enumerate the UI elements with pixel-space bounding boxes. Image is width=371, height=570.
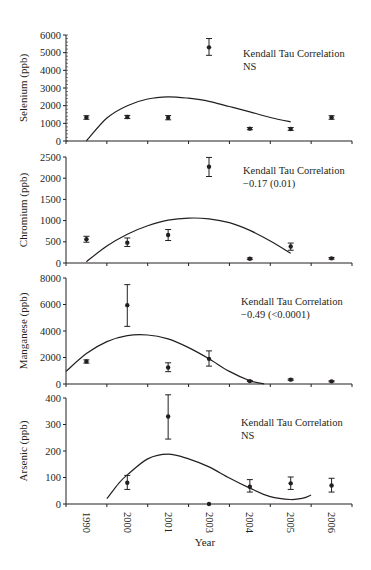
- x-tick-label: 2001: [163, 512, 174, 533]
- x-tick-label: 2005: [285, 512, 296, 533]
- x-axis-title: Year: [195, 536, 216, 548]
- y-tick-label: 4000: [40, 326, 61, 337]
- point-marker: [289, 127, 293, 131]
- kendall-tau-value: NS: [243, 61, 257, 72]
- data-point: [329, 379, 335, 383]
- data-point: [206, 39, 212, 56]
- y-tick-label: 0: [56, 136, 61, 147]
- kendall-tau-annotation: Kendall Tau Correlation: [241, 417, 343, 428]
- kendall-tau-annotation: Kendall Tau Correlation: [241, 296, 343, 307]
- data-point: [124, 238, 130, 246]
- point-marker: [125, 115, 129, 119]
- kendall-tau-annotation: Kendall Tau Correlation: [243, 48, 345, 59]
- panel-arsenic: 0100200300400Arsenic (ppb)Kendall Tau Co…: [17, 393, 352, 510]
- y-axis-title: Selenium (ppb): [17, 54, 30, 122]
- y-tick-label: 0: [56, 258, 61, 269]
- x-tick-label: 2004: [244, 512, 255, 534]
- fit-curve: [86, 97, 290, 141]
- y-tick-label: 100: [45, 472, 61, 483]
- data-point: [329, 115, 335, 119]
- point-marker: [84, 359, 88, 363]
- y-tick-label: 6000: [40, 30, 61, 41]
- point-marker: [248, 126, 252, 130]
- fit-curve: [86, 218, 290, 262]
- x-tick-label: 2000: [122, 512, 133, 533]
- data-point: [165, 115, 171, 119]
- point-marker: [207, 502, 211, 506]
- y-tick-label: 400: [45, 393, 61, 404]
- data-point: [247, 480, 253, 492]
- y-axis-title: Chromium (ppb): [17, 173, 30, 248]
- y-axis-title: Arsenic (ppb): [17, 420, 30, 481]
- multi-panel-chart: 0100020003000400050006000Selenium (ppb)K…: [0, 0, 371, 570]
- panel-manganese: 02000400060008000Manganese (ppb)Kendall …: [17, 273, 352, 390]
- point-marker: [248, 379, 252, 383]
- data-point: [165, 230, 171, 241]
- y-tick-label: 2000: [40, 352, 61, 363]
- data-point: [288, 243, 294, 250]
- kendall-tau-value: −0.49 (<0.0001): [241, 309, 310, 321]
- point-marker: [207, 45, 211, 49]
- data-point: [83, 359, 89, 363]
- y-tick-label: 2000: [40, 173, 61, 184]
- point-marker: [84, 237, 88, 241]
- point-marker: [289, 481, 293, 485]
- panel-chromium: 05001000150020002500Chromium (ppb)Kendal…: [17, 152, 352, 269]
- y-tick-label: 0: [56, 379, 61, 390]
- data-point: [247, 126, 253, 130]
- x-tick-label: 2003: [204, 512, 215, 533]
- point-marker: [125, 481, 129, 485]
- y-tick-label: 2500: [40, 152, 61, 163]
- data-point: [207, 502, 211, 506]
- x-tick-label: 2006: [326, 512, 337, 533]
- y-tick-label: 1000: [40, 215, 61, 226]
- data-point: [247, 257, 253, 261]
- point-marker: [207, 357, 211, 361]
- point-marker: [289, 244, 293, 248]
- x-tick-label: 1990: [81, 512, 92, 533]
- y-tick-label: 1500: [40, 194, 61, 205]
- y-tick-label: 300: [45, 419, 61, 430]
- data-point: [206, 157, 212, 176]
- point-marker: [166, 414, 170, 418]
- point-marker: [166, 233, 170, 237]
- point-marker: [166, 365, 170, 369]
- y-tick-label: 500: [45, 236, 61, 247]
- fit-curve: [107, 454, 311, 499]
- data-point: [206, 351, 212, 366]
- data-point: [83, 236, 89, 242]
- y-tick-label: 1000: [40, 118, 61, 129]
- point-marker: [84, 115, 88, 119]
- data-point: [329, 478, 335, 492]
- data-point: [165, 395, 171, 439]
- point-marker: [329, 115, 333, 119]
- point-marker: [207, 165, 211, 169]
- data-point: [288, 377, 294, 381]
- data-point: [288, 127, 294, 131]
- point-marker: [289, 377, 293, 381]
- point-marker: [166, 115, 170, 119]
- y-tick-label: 0: [56, 499, 61, 510]
- kendall-tau-value: NS: [241, 430, 255, 441]
- data-point: [83, 115, 89, 119]
- data-point: [329, 256, 335, 260]
- point-marker: [329, 483, 333, 487]
- y-tick-label: 4000: [40, 65, 61, 76]
- kendall-tau-value: −0.17 (0.01): [243, 178, 296, 190]
- data-point: [288, 477, 294, 489]
- panels-root: 0100020003000400050006000Selenium (ppb)K…: [17, 30, 352, 534]
- y-tick-label: 8000: [40, 273, 61, 284]
- data-point: [124, 475, 130, 489]
- y-tick-label: 3000: [40, 83, 61, 94]
- data-point: [124, 115, 130, 119]
- point-marker: [125, 303, 129, 307]
- point-marker: [248, 485, 252, 489]
- panel-selenium: 0100020003000400050006000Selenium (ppb)K…: [17, 30, 352, 147]
- point-marker: [248, 257, 252, 261]
- y-axis-title: Manganese (ppb): [17, 292, 30, 369]
- point-marker: [329, 379, 333, 383]
- y-tick-label: 5000: [40, 47, 61, 58]
- data-point: [124, 285, 130, 327]
- y-tick-label: 2000: [40, 100, 61, 111]
- fit-curve: [66, 335, 264, 384]
